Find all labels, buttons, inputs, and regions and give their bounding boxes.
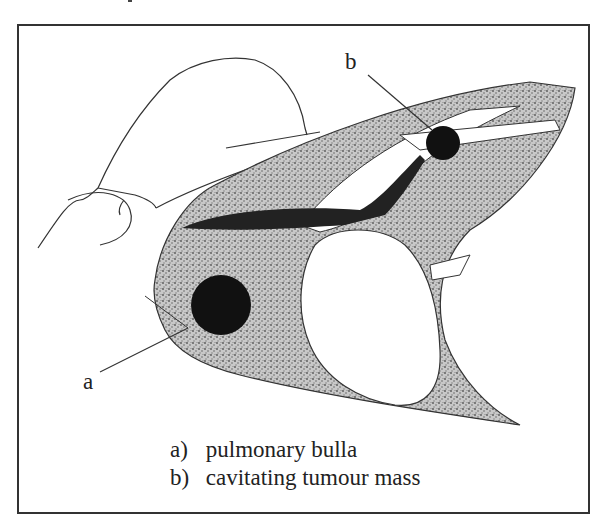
legend-item-cavitating-tumour-mass: b) cavitating tumour mass xyxy=(170,464,420,492)
legend-text: pulmonary bulla xyxy=(206,437,357,462)
cavitating-tumour-lesion xyxy=(426,126,460,160)
legend-item-pulmonary-bulla: a) pulmonary bulla xyxy=(170,436,420,464)
legend-text: cavitating tumour mass xyxy=(206,465,421,490)
legend-key: a) xyxy=(170,436,200,464)
leader-line-a xyxy=(100,328,188,372)
legend-key: b) xyxy=(170,464,200,492)
callout-label-a: a xyxy=(83,370,93,393)
callout-label-b: b xyxy=(345,50,357,73)
legend: a) pulmonary bulla b) cavitating tumour … xyxy=(170,436,420,492)
pulmonary-bulla-lesion xyxy=(191,275,251,335)
